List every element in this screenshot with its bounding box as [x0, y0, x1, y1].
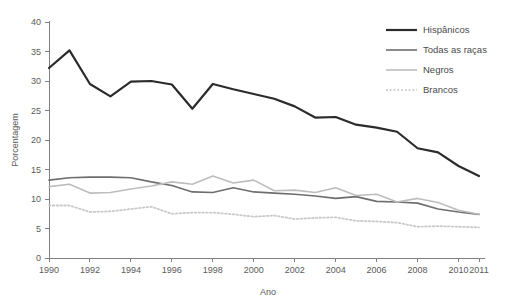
- y-axis-tick-label: 5: [36, 224, 41, 234]
- x-axis-tick-label: 1990: [39, 265, 59, 275]
- x-axis-tick-label: 2000: [244, 265, 264, 275]
- y-axis-tick-label: 25: [31, 106, 41, 116]
- x-axis-tick-label: 2010: [449, 265, 469, 275]
- y-axis-tick-label: 0: [36, 253, 41, 263]
- legend-label-hisp-nicos: Hispânicos: [423, 24, 470, 35]
- x-axis-tick-label: 1996: [162, 265, 182, 275]
- line-chart: 0510152025303540 19901992199419961998200…: [0, 0, 509, 306]
- y-axis-tick-label: 30: [31, 76, 41, 86]
- x-axis-title: Ano: [260, 287, 276, 297]
- x-axis-tick-label: 2006: [367, 265, 387, 275]
- y-axis-tick-label: 35: [31, 47, 41, 57]
- legend-label-brancos: Brancos: [423, 84, 458, 95]
- x-axis-tick-label: 1992: [80, 265, 100, 275]
- x-axis-tick-label: 2011: [469, 265, 488, 275]
- x-axis-tick-label: 2008: [408, 265, 428, 275]
- x-axis-tick-label: 1998: [203, 265, 223, 275]
- legend-label-todas-as-ra-as: Todas as raças: [423, 44, 487, 55]
- y-axis-tick-label: 40: [31, 17, 41, 27]
- x-axis-tick-label: 2004: [326, 265, 346, 275]
- y-axis-tick-label: 20: [31, 135, 41, 145]
- y-axis-tick-label: 15: [31, 165, 41, 175]
- chart-container: 0510152025303540 19901992199419961998200…: [0, 0, 509, 306]
- y-axis-tick-label: 10: [31, 194, 41, 204]
- x-axis-tick-label: 1994: [121, 265, 141, 275]
- legend-label-negros: Negros: [423, 64, 454, 75]
- y-axis-title: Porcentagem: [10, 113, 20, 167]
- x-axis-tick-label: 2002: [285, 265, 305, 275]
